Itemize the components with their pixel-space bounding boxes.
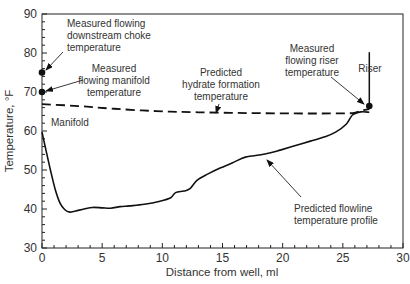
svg-text:flowing manifold: flowing manifold — [78, 75, 150, 86]
y-tick-label: 70 — [24, 85, 38, 99]
svg-text:hydrate formation: hydrate formation — [182, 79, 260, 90]
x-axis-title: Distance from well, ml — [166, 266, 278, 278]
svg-text:temperature: temperature — [87, 87, 141, 98]
measured-point — [39, 89, 46, 96]
temperature-profile-chart: 05101520253030405060708090 Distance from… — [0, 0, 410, 284]
y-tick-label: 90 — [24, 7, 38, 21]
svg-text:temperature: temperature — [285, 67, 339, 78]
annotation-manifold: Measuredflowing manifoldtemperature — [46, 63, 150, 98]
x-tick-label: 15 — [216, 251, 230, 265]
flowline-temperature-line — [42, 112, 369, 212]
svg-text:Riser: Riser — [358, 63, 382, 74]
chart-container: 05101520253030405060708090 Distance from… — [0, 0, 410, 284]
y-tick-label: 50 — [24, 163, 38, 177]
x-tick-label: 25 — [336, 251, 350, 265]
y-tick-label: 30 — [24, 241, 38, 255]
annotation-hydrate: Predictedhydrate formationtemperature — [182, 67, 260, 113]
x-tick-label: 30 — [396, 251, 410, 265]
svg-text:flowing riser: flowing riser — [285, 55, 339, 66]
hydrate-temperature-line — [42, 104, 369, 113]
annotations: Measured flowingdownstream choketemperat… — [46, 18, 382, 226]
x-tick-label: 0 — [39, 251, 46, 265]
annotation-arrow — [267, 160, 301, 197]
svg-text:temperature profile: temperature profile — [294, 215, 378, 226]
svg-text:downstream choke: downstream choke — [67, 30, 151, 41]
annotation-riser: Riser — [358, 63, 382, 74]
annotation-flowline: Predicted flowlinetemperature profile — [267, 160, 378, 226]
y-tick-label: 40 — [24, 202, 38, 216]
annotation-riser-temp: Measuredflowing risertemperature — [285, 43, 364, 104]
x-tick-label: 10 — [156, 251, 170, 265]
x-tick-label: 20 — [276, 251, 290, 265]
measured-point — [366, 103, 373, 110]
annotation-arrow — [216, 104, 219, 113]
svg-text:Measured: Measured — [290, 43, 334, 54]
y-axis-title: Temperature, °F — [3, 90, 15, 173]
series-layer — [42, 104, 369, 212]
x-tick-label: 5 — [99, 251, 106, 265]
y-tick-label: 60 — [24, 124, 38, 138]
annotation-arrow — [331, 77, 364, 104]
svg-text:Measured flowing: Measured flowing — [67, 18, 145, 29]
svg-text:temperature: temperature — [194, 91, 248, 102]
svg-text:temperature: temperature — [67, 42, 121, 53]
annotation-manifold-label: Manifold — [51, 117, 89, 128]
svg-text:Predicted: Predicted — [200, 67, 242, 78]
svg-text:Manifold: Manifold — [51, 117, 89, 128]
measured-point — [39, 69, 46, 76]
y-tick-label: 80 — [24, 46, 38, 60]
svg-text:Measured: Measured — [92, 63, 136, 74]
svg-text:Predicted flowline: Predicted flowline — [294, 203, 373, 214]
annotation-arrow — [46, 52, 63, 70]
